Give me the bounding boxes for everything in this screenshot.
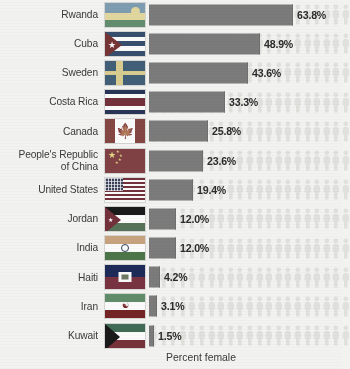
country-label: People's Republic of China [0, 149, 103, 172]
person-icon [226, 267, 236, 288]
person-icon [235, 325, 245, 346]
person-icon [274, 325, 284, 346]
person-icon [331, 208, 341, 229]
person-icon [264, 92, 274, 113]
person-icon [303, 92, 313, 113]
person-icon [312, 150, 322, 171]
chart-row: Kuwait 1.5% [0, 321, 342, 350]
flag-cell: ★ [103, 31, 149, 57]
person-icon [235, 208, 245, 229]
plot-area: 4.2% [149, 263, 342, 292]
person-icon [245, 121, 255, 142]
person-icon [322, 121, 332, 142]
person-icon [303, 150, 313, 171]
person-icon [312, 121, 322, 142]
person-icon [255, 208, 265, 229]
person-icon [274, 238, 284, 259]
person-icon [331, 4, 341, 25]
person-icon [245, 267, 255, 288]
haiti-flag [104, 264, 146, 290]
person-icon [331, 238, 341, 259]
plot-area: 12.0% [149, 204, 342, 233]
flag-cell: ★ [103, 206, 149, 232]
person-icon [283, 62, 293, 83]
person-icon [341, 62, 350, 83]
cuba-flag: ★ [104, 31, 146, 57]
person-icon [274, 179, 284, 200]
person-icon [264, 179, 274, 200]
person-icon [245, 150, 255, 171]
iran-flag: ☯ [104, 293, 146, 319]
person-icon [303, 33, 313, 54]
flag-cell: ☯ [103, 293, 149, 319]
person-icon [245, 179, 255, 200]
person-icon [303, 325, 313, 346]
flag-cell: ★ ★ ★ ★ ★ [103, 148, 149, 174]
person-icon [331, 296, 341, 317]
flag-cell [103, 235, 149, 261]
person-icon [341, 92, 350, 113]
value-bar [149, 62, 248, 83]
value-label: 33.3% [229, 96, 258, 108]
canada-flag: 🍁 [104, 118, 146, 144]
value-label: 43.6% [252, 67, 281, 79]
person-icon [245, 325, 255, 346]
person-icon [274, 296, 284, 317]
chart-row: United States 19.4% [0, 175, 342, 204]
value-bar [149, 238, 176, 259]
person-icon [283, 267, 293, 288]
person-icon [341, 179, 350, 200]
person-icon [235, 179, 245, 200]
person-icon [274, 267, 284, 288]
person-icon [331, 267, 341, 288]
value-label: 63.8% [297, 9, 326, 21]
person-icon [312, 92, 322, 113]
chart-row: Sweden 43.6% [0, 58, 342, 87]
person-icon [312, 33, 322, 54]
plot-area: 23.6% [149, 146, 342, 175]
person-icon [255, 150, 265, 171]
value-bar [149, 325, 154, 346]
person-icon [226, 238, 236, 259]
person-icon [293, 296, 303, 317]
caption-row: Percent female [0, 350, 342, 369]
person-icon [331, 325, 341, 346]
chart-row: Cuba ★ 48.9% [0, 29, 342, 58]
person-icon [264, 121, 274, 142]
person-icon [341, 4, 350, 25]
flag-cell [103, 89, 149, 115]
person-icon [264, 208, 274, 229]
flag-cell [103, 2, 149, 28]
value-label: 25.8% [212, 125, 241, 137]
person-icon [303, 121, 313, 142]
person-icon [341, 267, 350, 288]
person-icon [207, 325, 217, 346]
country-label: Costa Rica [0, 96, 103, 107]
person-icon [216, 208, 226, 229]
person-icon [216, 325, 226, 346]
person-icon [226, 296, 236, 317]
person-icon [303, 179, 313, 200]
person-icon [283, 92, 293, 113]
country-label: Iran [0, 301, 103, 312]
value-label: 19.4% [197, 184, 226, 196]
person-icon [264, 267, 274, 288]
person-icon [207, 267, 217, 288]
person-icon [283, 325, 293, 346]
country-label: Cuba [0, 38, 103, 49]
person-icon [322, 325, 332, 346]
person-icon [293, 92, 303, 113]
chart-row: Canada 🍁 25.8% [0, 117, 342, 146]
person-icon [341, 325, 350, 346]
country-label: Sweden [0, 67, 103, 78]
person-icon [331, 33, 341, 54]
person-icon [331, 121, 341, 142]
value-bar [149, 208, 176, 229]
person-icon [187, 325, 197, 346]
person-icon [245, 238, 255, 259]
person-icon [293, 179, 303, 200]
person-icon [341, 121, 350, 142]
person-icon [293, 267, 303, 288]
value-label: 1.5% [158, 330, 181, 342]
person-icon [293, 208, 303, 229]
